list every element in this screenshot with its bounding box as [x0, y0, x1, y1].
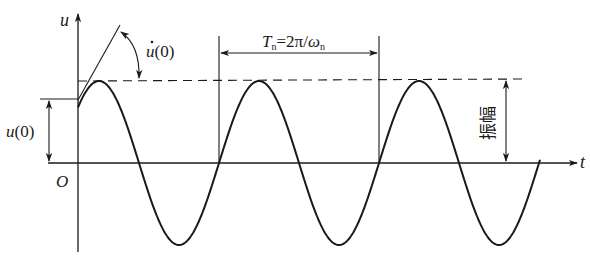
amplitude-dashed-line	[78, 79, 525, 81]
u-dot-0-label: u(0)	[146, 42, 174, 61]
u0-label: u(0)	[6, 122, 34, 141]
vibration-diagram: u t O u(0) u(0) Tn=2π/ωn 振幅	[0, 0, 590, 265]
u-axis-label: u	[60, 10, 69, 30]
amplitude-label: 振幅	[479, 106, 498, 140]
origin-label: O	[56, 172, 68, 191]
t-axis-label: t	[580, 152, 586, 172]
velocity-arc-arrow	[121, 32, 139, 78]
period-label: Tn=2π/ωn	[262, 32, 325, 52]
initial-slope-line	[78, 25, 120, 100]
u-dot-mark	[151, 41, 154, 44]
